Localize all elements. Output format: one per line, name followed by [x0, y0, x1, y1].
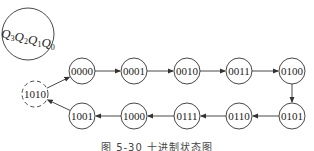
state-node: 1000	[121, 103, 147, 129]
state-node: 0011	[226, 58, 252, 84]
state-label: 0011	[228, 65, 250, 77]
state-node: 0000	[69, 58, 95, 84]
state-label: 0010	[176, 65, 199, 77]
transition-arrow	[47, 77, 70, 88]
state-node: 1010	[22, 81, 48, 107]
state-node: 0010	[174, 58, 200, 84]
state-label: 0111	[176, 110, 197, 122]
state-label: 1010	[24, 88, 47, 100]
state-diagram: Q3Q2Q1Q0 0000000100100011010001010110011…	[0, 0, 314, 151]
state-node: 0110	[226, 103, 252, 129]
state-label: 0101	[281, 110, 303, 122]
state-node: 0100	[279, 58, 305, 84]
legend-label: Q3Q2Q1Q0	[1, 26, 55, 52]
state-label: 0001	[123, 65, 145, 77]
state-label: 1000	[123, 110, 146, 122]
state-node: 0001	[121, 58, 147, 84]
state-nodes: 0000000100100011010001010110011110001001…	[22, 58, 305, 129]
transition-arrow	[48, 100, 71, 111]
state-node: 0101	[279, 103, 305, 129]
state-label: 0100	[281, 65, 304, 77]
legend-node: Q3Q2Q1Q0	[1, 8, 55, 60]
state-node: 0111	[174, 103, 200, 129]
state-node: 1001	[69, 103, 95, 129]
state-label: 0110	[228, 110, 250, 122]
figure-caption: 图 5-30 十进制状态图	[0, 139, 314, 151]
state-label: 1001	[71, 110, 93, 122]
state-label: 0000	[71, 65, 94, 77]
